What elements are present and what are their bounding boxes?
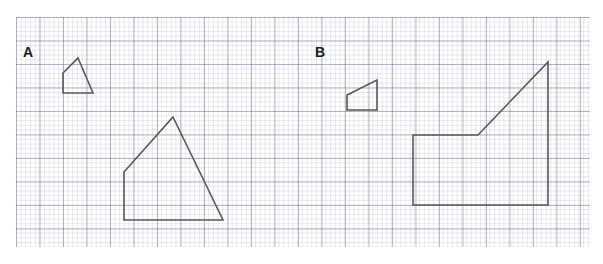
shape-layer bbox=[0, 0, 603, 264]
shape-b-small-polygon[interactable] bbox=[347, 80, 377, 110]
worksheet-canvas: A B bbox=[0, 0, 603, 264]
shape-a-large-polygon[interactable] bbox=[124, 117, 223, 220]
shape-a-small-polygon[interactable] bbox=[63, 58, 93, 93]
shape-b-large-polygon[interactable] bbox=[413, 62, 548, 205]
